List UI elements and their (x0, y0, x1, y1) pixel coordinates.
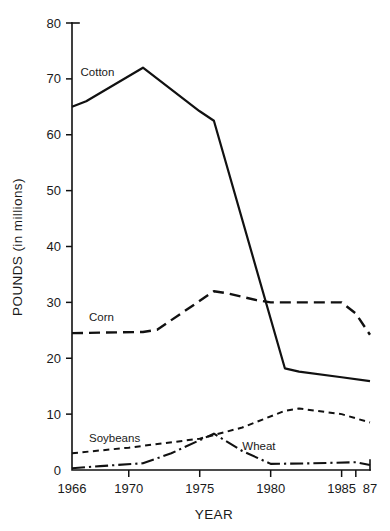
series-line-cotton (72, 68, 370, 381)
x-tick-label: 1966 (58, 481, 87, 496)
series-line-soybeans (72, 409, 370, 454)
y-tick-label: 30 (47, 295, 61, 310)
x-tick-label: 87 (363, 481, 377, 496)
y-tick-label: 80 (47, 16, 61, 31)
axes (72, 23, 370, 470)
y-tick-label: 10 (47, 407, 61, 422)
y-tick-label: 60 (47, 127, 61, 142)
series-labels: CottonCornSoybeansWheat (81, 66, 277, 452)
y-tick-label: 20 (47, 351, 61, 366)
y-tick-label: 40 (47, 239, 61, 254)
series-label-corn: Corn (89, 311, 114, 323)
x-tick-label: 1975 (185, 481, 214, 496)
x-axis-title: YEAR (195, 507, 233, 522)
axis-ticks (66, 23, 356, 477)
x-tick-label: 1980 (256, 481, 285, 496)
x-tick-label: 1985 (327, 481, 356, 496)
y-tick-label: 0 (54, 463, 61, 478)
series-label-wheat: Wheat (242, 440, 276, 452)
x-tick-label: 1970 (114, 481, 143, 496)
y-tick-label: 70 (47, 71, 61, 86)
chart-canvas: 01020304050607080 1966197019751980198587… (0, 0, 390, 531)
y-tick-label: 50 (47, 183, 61, 198)
series-label-cotton: Cotton (81, 66, 115, 78)
data-series (72, 68, 370, 469)
series-line-corn (72, 291, 370, 335)
y-axis-tick-labels: 01020304050607080 (47, 16, 61, 478)
series-label-soybeans: Soybeans (89, 432, 140, 444)
x-axis-tick-labels: 1966197019751980198587 (58, 481, 378, 496)
y-axis-title: POUNDS (in millions) (10, 178, 25, 316)
line-chart: 01020304050607080 1966197019751980198587… (0, 0, 390, 531)
axis-spine (72, 23, 370, 470)
